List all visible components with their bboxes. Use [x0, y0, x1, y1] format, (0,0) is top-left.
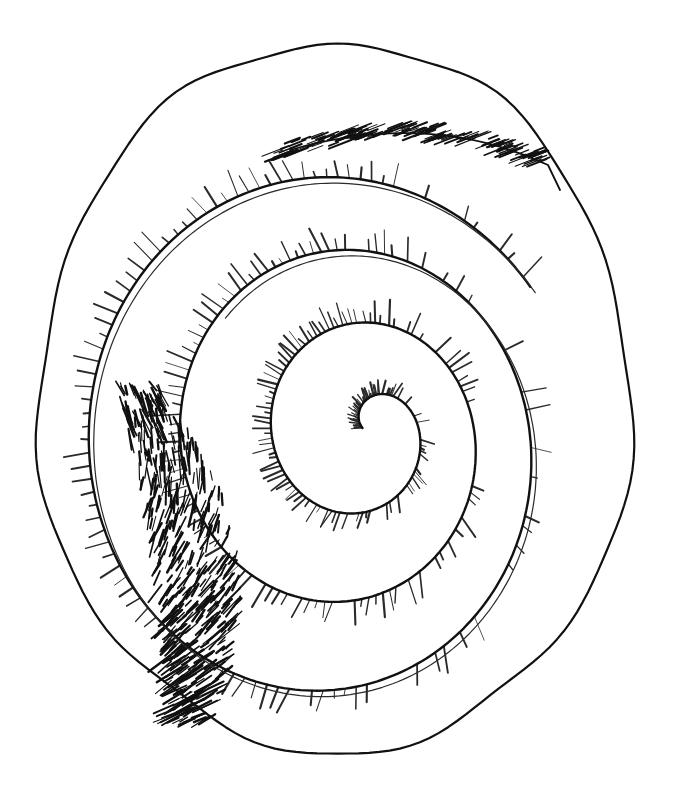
drawing-canvas	[0, 0, 676, 796]
spiral-shell-illustration	[0, 0, 676, 796]
